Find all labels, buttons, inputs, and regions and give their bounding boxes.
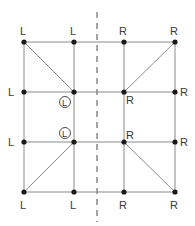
label-top-1: L — [70, 25, 76, 37]
label-bottom-0: L — [20, 199, 26, 211]
diagonal-top-left — [24, 42, 74, 92]
label-top-3: R — [170, 25, 178, 37]
label-top-0: L — [20, 25, 26, 37]
label-row2-inner-right: R — [126, 129, 134, 141]
diagonal-lines — [24, 42, 175, 192]
symmetry-grid-diagram: L L R R L L R R L L R R L L R R — [0, 0, 195, 226]
label-row2-left: L — [8, 136, 14, 148]
label-bottom-1: L — [70, 199, 76, 211]
diagonal-bottom-left — [24, 142, 74, 192]
diagonal-top-right — [124, 42, 175, 92]
label-top-2: R — [119, 25, 127, 37]
label-row2-right: R — [180, 136, 188, 148]
label-bottom-2: R — [119, 199, 127, 211]
label-row1-right: R — [180, 86, 188, 98]
label-row1-left: L — [8, 86, 14, 98]
label-row1-circled: L — [62, 98, 67, 108]
label-row1-inner-right: R — [126, 94, 134, 106]
label-bottom-3: R — [170, 199, 178, 211]
label-row2-circled: L — [62, 129, 67, 139]
diagonal-bottom-right — [124, 142, 175, 192]
